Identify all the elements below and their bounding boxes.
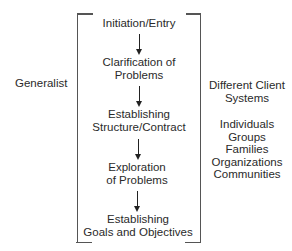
generalist-label: Generalist [15, 77, 67, 90]
list-item: Families [206, 143, 288, 156]
stage-initiation-entry: Initiation/Entry [89, 17, 189, 30]
arrow-down-icon [138, 139, 139, 155]
arrow-down-icon [137, 191, 138, 207]
stage-exploration-of-problems: Exploration of Problems [87, 161, 187, 187]
right-bracket-top [186, 13, 201, 15]
left-bracket-top [77, 13, 93, 15]
client-systems-heading: Different Client Systems [206, 79, 288, 105]
list-item: Organizations [206, 156, 288, 169]
client-systems-list: Individuals Groups Families Organization… [206, 118, 288, 181]
left-bracket-bottom [76, 242, 92, 243]
stage-establishing-goals-objectives: Establishing Goals and Objectives [82, 213, 194, 239]
arrow-down-icon [139, 86, 140, 102]
stage-clarification-of-problems: Clarification of Problems [89, 56, 189, 82]
list-item: Individuals [206, 118, 288, 131]
left-bracket-side [77, 13, 78, 243]
arrow-down-icon [139, 34, 140, 50]
list-item: Communities [206, 168, 288, 181]
stage-establishing-structure-contract: Establishing Structure/Contract [84, 108, 194, 134]
list-item: Groups [206, 131, 288, 144]
right-bracket-side [200, 13, 201, 243]
right-bracket-bottom [185, 242, 201, 243]
